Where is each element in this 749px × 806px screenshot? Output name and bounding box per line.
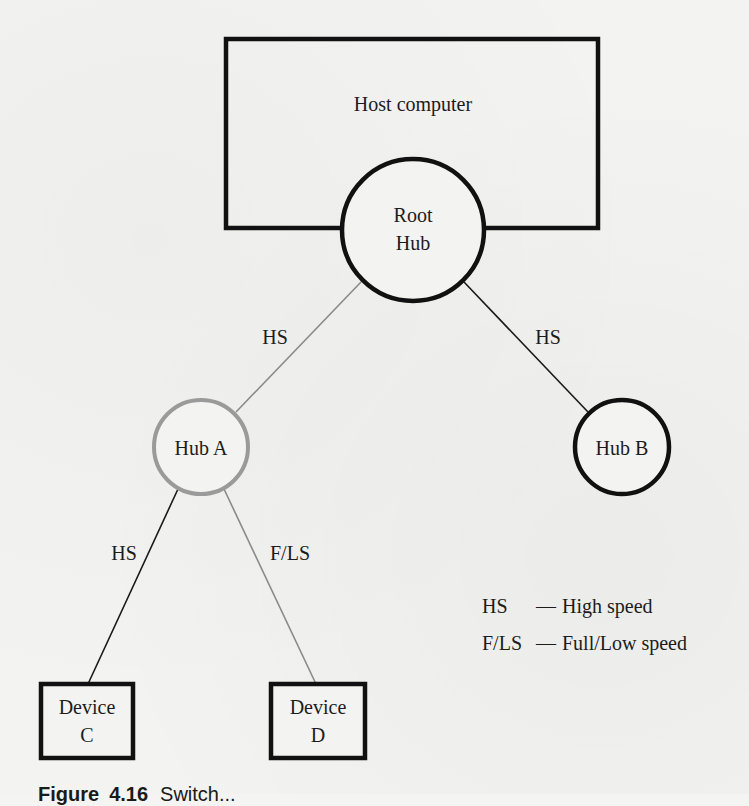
legend-row-hs: HS — High speed — [482, 588, 687, 625]
link-hub-a-to-device-c — [88, 489, 178, 684]
link-root-to-hub-a — [236, 282, 361, 412]
link-label-root-hub-a: HS — [262, 327, 288, 347]
device-c-label-line1: Device — [59, 693, 116, 721]
root-hub-label-line2: Hub — [394, 229, 433, 257]
root-hub-label-line1: Root — [394, 201, 433, 229]
link-label-hub-a-device-d: F/LS — [270, 543, 310, 563]
link-label-hub-a-device-c: HS — [111, 543, 137, 563]
caption-prefix: Figure — [38, 783, 99, 805]
link-root-to-hub-b — [464, 282, 588, 412]
link-hub-a-to-device-d — [224, 489, 316, 684]
legend-key: F/LS — [482, 632, 536, 655]
legend-desc: Full/Low speed — [562, 632, 687, 655]
legend-row-fls: F/LS — Full/Low speed — [482, 625, 687, 662]
root-hub-label: Root Hub — [394, 201, 433, 257]
hub-b-label: Hub B — [596, 438, 649, 458]
device-d-label-line2: D — [290, 721, 347, 749]
caption-number: 4.16 — [109, 783, 148, 805]
legend-desc: High speed — [562, 595, 653, 618]
legend-dash: — — [536, 595, 556, 618]
host-computer-label: Host computer — [354, 94, 472, 114]
link-label-root-hub-b: HS — [535, 327, 561, 347]
device-d-label-line1: Device — [290, 693, 347, 721]
legend: HS — High speed F/LS — Full/Low speed — [482, 588, 687, 662]
hub-a-label: Hub A — [175, 438, 228, 458]
figure-caption: Figure4.16Switch... — [38, 783, 236, 806]
device-c-label: Device C — [59, 693, 116, 749]
device-d-label: Device D — [290, 693, 347, 749]
legend-key: HS — [482, 595, 536, 618]
legend-dash: — — [536, 632, 556, 655]
device-c-label-line2: C — [59, 721, 116, 749]
caption-title: Switch... — [160, 783, 236, 805]
